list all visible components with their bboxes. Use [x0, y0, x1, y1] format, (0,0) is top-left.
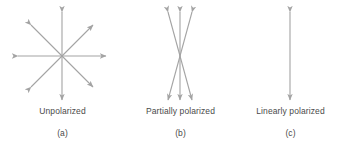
diagram-linearly-polarized	[233, 0, 347, 104]
diagram-partially-polarized	[123, 0, 238, 104]
index-label-b: (b)	[123, 128, 238, 139]
panel-partially-polarized: Partially polarized (b)	[123, 0, 238, 156]
caption-partially-polarized: Partially polarized	[123, 106, 238, 117]
index-label-a: (a)	[5, 128, 120, 139]
caption-unpolarized: Unpolarized	[5, 106, 120, 117]
arrow-group-partially-polarized	[168, 12, 192, 100]
panel-unpolarized: Unpolarized (a)	[5, 0, 120, 156]
polarization-figure: Unpolarized (a) Parti	[0, 0, 347, 156]
caption-linearly-polarized: Linearly polarized	[233, 106, 347, 117]
arrow-group-unpolarized	[18, 12, 106, 100]
diagram-unpolarized	[5, 0, 120, 104]
panel-linearly-polarized: Linearly polarized (c)	[233, 0, 347, 156]
index-label-c: (c)	[233, 128, 347, 139]
